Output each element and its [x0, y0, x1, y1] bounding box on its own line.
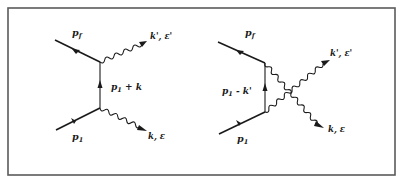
label-photon-out-top: k', ε': [330, 48, 352, 59]
photon-outgoing-top: [100, 44, 142, 63]
label-outgoing-electron: pf: [245, 27, 256, 40]
photon-arrow-icon: [137, 125, 147, 131]
label-incoming-electron: p1: [237, 133, 248, 146]
figure-frame: [8, 8, 395, 175]
label-photon-bottom: k, ε: [148, 131, 165, 142]
diagram-crossed: pf k', ε' p1 - k' p1 k, ε: [218, 27, 352, 146]
photon-outgoing-top: [265, 64, 323, 112]
label-incoming-electron: p1: [72, 131, 83, 144]
propagator-arrow-icon: [263, 83, 268, 91]
photon-arrow-icon: [139, 41, 147, 47]
incoming-electron-line: [219, 112, 265, 134]
photon-arrow-icon: [321, 60, 330, 66]
feynman-figure: pf k', ε' p1 + k p1 k, ε pf k', ε' p1 - …: [0, 0, 400, 181]
diagram-direct: pf k', ε' p1 + k p1 k, ε: [55, 27, 172, 144]
photon-arrow-icon: [314, 121, 324, 128]
electron-arrow-icon: [71, 118, 76, 124]
incoming-electron-line: [56, 108, 100, 130]
figure: pf k', ε' p1 + k p1 k, ε pf k', ε' p1 - …: [0, 0, 400, 181]
propagator-arrow-icon: [98, 80, 103, 88]
label-internal-momentum: p1 + k: [111, 82, 142, 94]
label-internal-momentum: p1 - k': [222, 86, 252, 98]
label-photon-bottom: k, ε: [328, 124, 345, 135]
label-outgoing-electron: pf: [72, 27, 83, 40]
label-photon-out-top: k', ε': [150, 31, 172, 42]
photon-bottom: [100, 108, 140, 128]
